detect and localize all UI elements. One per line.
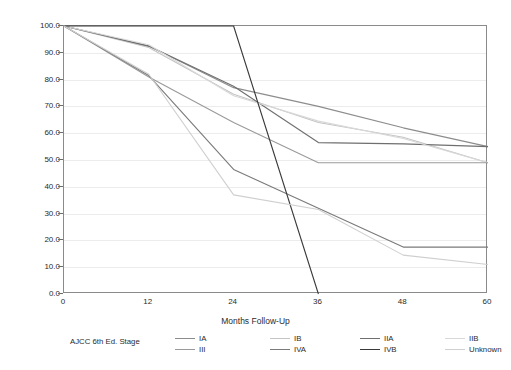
legend-label: IA: [199, 334, 206, 343]
legend-swatch-ib: [270, 338, 290, 339]
series-line-ia: [64, 26, 488, 147]
legend-label: IVB: [384, 345, 397, 354]
plot-area: [63, 25, 487, 293]
legend-swatch-ia: [175, 338, 195, 339]
series-lines: [64, 26, 488, 294]
y-tick-label: 50.0: [20, 155, 60, 164]
legend-label: III: [199, 345, 206, 354]
legend-label: Unknown: [469, 345, 502, 354]
y-tick-label: 70.0: [20, 101, 60, 110]
y-tick-label: 40.0: [20, 181, 60, 190]
legend-label: IIB: [469, 334, 479, 343]
legend-title: AJCC 6th Ed. Stage: [70, 337, 140, 346]
y-tick-label: 20.0: [20, 235, 60, 244]
y-tick-label: 0.0: [20, 289, 60, 298]
y-tick-label: 100.0: [20, 21, 60, 30]
y-tick-mark: [58, 293, 63, 294]
legend-swatch-ivb: [360, 349, 380, 350]
series-line-iva: [64, 26, 488, 247]
legend-item-iib[interactable]: IIB: [445, 334, 479, 343]
series-line-unknown: [64, 26, 488, 265]
x-tick-label: 48: [398, 297, 407, 306]
y-tick-label: 30.0: [20, 208, 60, 217]
legend-item-ib[interactable]: IB: [270, 334, 301, 343]
legend-swatch-iii: [175, 349, 195, 350]
y-tick-label: 60.0: [20, 128, 60, 137]
x-tick-label: 0: [61, 297, 65, 306]
legend-item-iva[interactable]: IVA: [270, 345, 306, 354]
survival-curve-chart: Survival Rate % 0.010.020.030.040.050.06…: [0, 0, 511, 370]
y-axis-tick-labels: 0.010.020.030.040.050.060.070.080.090.01…: [18, 0, 60, 370]
y-tick-label: 80.0: [20, 74, 60, 83]
x-tick-label: 12: [143, 297, 152, 306]
legend-label: IVA: [294, 345, 306, 354]
y-tick-label: 10.0: [20, 262, 60, 271]
series-line-iia: [64, 26, 488, 147]
x-tick-label: 24: [228, 297, 237, 306]
legend-label: IIA: [384, 334, 394, 343]
legend-swatch-unknown: [445, 349, 465, 350]
x-axis-title: Months Follow-Up: [0, 316, 511, 326]
y-tick-label: 90.0: [20, 47, 60, 56]
x-tick-label: 36: [313, 297, 322, 306]
legend-label: IB: [294, 334, 301, 343]
x-tick-label: 60: [483, 297, 492, 306]
legend-item-ia[interactable]: IA: [175, 334, 206, 343]
legend-swatch-iib: [445, 338, 465, 339]
legend-item-ivb[interactable]: IVB: [360, 345, 397, 354]
legend-item-iia[interactable]: IIA: [360, 334, 394, 343]
legend-swatch-iva: [270, 349, 290, 350]
legend-item-unknown[interactable]: Unknown: [445, 345, 502, 354]
legend-swatch-iia: [360, 338, 380, 339]
legend-item-iii[interactable]: III: [175, 345, 206, 354]
series-line-iii: [64, 26, 488, 163]
